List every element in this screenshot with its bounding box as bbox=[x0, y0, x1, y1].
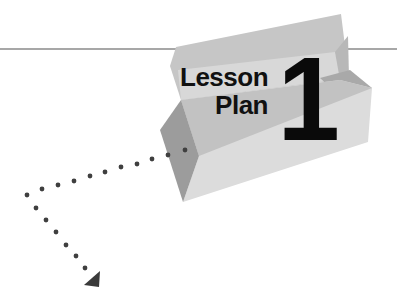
title-lesson: Lesson bbox=[180, 63, 268, 91]
dotted-arrow-path bbox=[25, 148, 188, 271]
arrowhead-icon bbox=[84, 271, 100, 287]
title-plan: Plan bbox=[180, 91, 268, 119]
lesson-plan-graphic: Lesson Plan 1 bbox=[0, 0, 397, 302]
lesson-number: 1 bbox=[277, 44, 330, 154]
